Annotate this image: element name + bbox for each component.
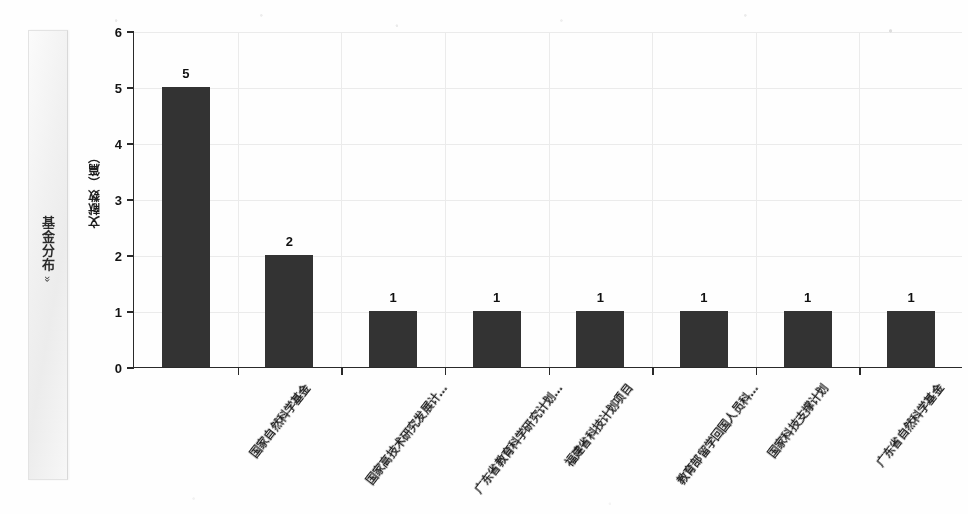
bar-value-label: 1: [908, 290, 915, 305]
y-axis-tick-label: 4: [115, 137, 122, 152]
gridline-vertical: [341, 32, 342, 367]
y-axis-tick: [127, 367, 134, 369]
bar-value-label: 1: [700, 290, 707, 305]
y-axis-tick-label: 2: [115, 249, 122, 264]
y-axis-tick: [127, 31, 134, 33]
x-axis-tick: [549, 367, 551, 375]
x-axis-category-label: 国家自然科学基金: [245, 380, 313, 460]
bar[interactable]: [784, 311, 832, 367]
y-axis-tick-label: 1: [115, 305, 122, 320]
y-axis-tick: [127, 255, 134, 257]
x-axis-category-label: 广东省教育科学研究计划…: [470, 380, 566, 496]
y-axis-tick: [127, 311, 134, 313]
bar[interactable]: [576, 311, 624, 367]
gridline-vertical: [652, 32, 653, 367]
y-axis-tick: [127, 143, 134, 145]
fund-distribution-side-tab[interactable]: 基金分布 »: [28, 30, 68, 480]
side-tab-content: 基金分布 »: [39, 216, 58, 282]
x-axis-category-label: 教育部留学回国人员科…: [673, 380, 762, 487]
bar-value-label: 1: [389, 290, 396, 305]
gridline-vertical: [859, 32, 860, 367]
y-axis-tick-label: 5: [115, 81, 122, 96]
plot-area: 012345652111111: [133, 32, 962, 368]
x-axis-tick: [859, 367, 861, 375]
y-axis-tick-label: 0: [115, 361, 122, 376]
bar[interactable]: [680, 311, 728, 367]
bar-value-label: 1: [804, 290, 811, 305]
x-axis-tick: [341, 367, 343, 375]
bar[interactable]: [265, 255, 313, 367]
bar[interactable]: [369, 311, 417, 367]
x-axis-category-label: 广东省自然科学基金: [871, 380, 946, 469]
gridline-vertical: [238, 32, 239, 367]
side-tab-label: 基金分布: [39, 216, 58, 272]
gridline-vertical: [756, 32, 757, 367]
y-axis-title: 文献数（篇）: [86, 150, 108, 228]
bar[interactable]: [473, 311, 521, 367]
x-axis-category-label: 国家科技支撑计划: [763, 380, 831, 460]
y-axis-tick-label: 6: [115, 25, 122, 40]
x-axis-category-label: 国家高技术研究发展计…: [362, 380, 451, 487]
y-axis-tick-label: 3: [115, 193, 122, 208]
x-axis-tick: [652, 367, 654, 375]
x-axis-tick: [238, 367, 240, 375]
bar-value-label: 5: [182, 66, 189, 81]
bar-value-label: 2: [286, 234, 293, 249]
chevron-right-icon[interactable]: »: [42, 276, 54, 282]
x-axis-tick: [445, 367, 447, 375]
x-axis-category-label: 福建省科技计划项目: [560, 380, 635, 469]
bar-value-label: 1: [597, 290, 604, 305]
bar[interactable]: [887, 311, 935, 367]
gridline-vertical: [549, 32, 550, 367]
gridline-vertical: [445, 32, 446, 367]
bar-chart: 文献数（篇） 012345652111111 国家自然科学基金国家高技术研究发展…: [82, 20, 962, 490]
y-axis-tick: [127, 199, 134, 201]
x-axis-tick: [756, 367, 758, 375]
bar-value-label: 1: [493, 290, 500, 305]
y-axis-tick: [127, 87, 134, 89]
bar[interactable]: [162, 87, 210, 367]
